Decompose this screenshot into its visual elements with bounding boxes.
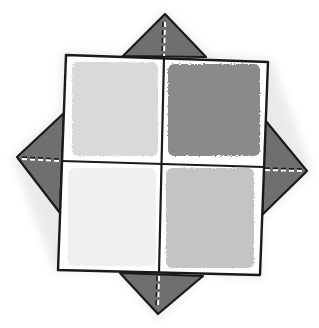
top-flap	[123, 14, 206, 57]
quadrant-bottom-right	[166, 168, 254, 268]
origami-diagram	[0, 0, 319, 328]
quadrant-top-left	[72, 62, 158, 156]
center-square	[58, 55, 268, 275]
quadrant-bottom-left	[68, 168, 156, 266]
diagram-canvas	[0, 0, 319, 328]
quadrant-top-right	[168, 64, 260, 156]
bottom-flap	[120, 273, 203, 314]
